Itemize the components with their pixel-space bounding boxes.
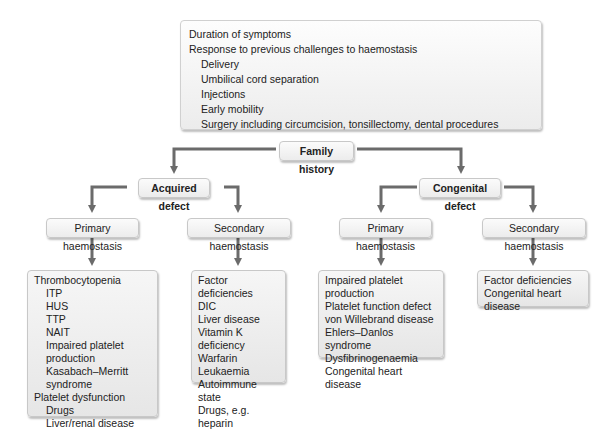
history-questions-box: Duration of symptoms Response to previou… xyxy=(180,20,542,130)
acquired-secondary-list: Factor deficiencies DIC Liver disease Vi… xyxy=(191,270,286,383)
history-subitem: Surgery including circumcision, tonsille… xyxy=(189,117,533,132)
list-item: Factor deficiencies xyxy=(484,274,582,287)
list-item: Congenital heart disease xyxy=(325,365,437,391)
list-subitem: TTP xyxy=(34,313,151,326)
acquired-primary-node: Primary haemostasis xyxy=(46,218,139,238)
list-item: von Willebrand disease xyxy=(325,313,437,326)
list-item: Ehlers–Danlos syndrome xyxy=(325,326,437,352)
list-subitem: Kasabach–Merritt syndrome xyxy=(34,365,151,391)
list-item: Platelet dysfunction xyxy=(34,391,151,404)
family-history-label: Family history xyxy=(299,145,334,175)
list-subitem: Impaired platelet production xyxy=(34,339,151,365)
congenital-secondary-list: Factor deficiencies Congenital heart dis… xyxy=(477,270,589,307)
congenital-defect-node: Congenital defect xyxy=(419,178,501,198)
list-item: Leukaemia xyxy=(198,365,279,378)
acquired-defect-node: Acquired defect xyxy=(138,178,210,198)
history-item: Duration of symptoms xyxy=(189,27,533,42)
acquired-primary-list: Thrombocytopenia ITP HUS TTP NAIT Impair… xyxy=(27,270,158,417)
list-item: Dysfibrinogenaemia xyxy=(325,352,437,365)
list-item: Impaired platelet production xyxy=(325,274,437,300)
acquired-primary-label: Primary haemostasis xyxy=(63,222,122,252)
list-item: Liver disease xyxy=(198,313,279,326)
list-item: Vitamin K deficiency xyxy=(198,326,279,352)
history-subitem: Early mobility xyxy=(189,102,533,117)
acquired-secondary-label: Secondary haemostasis xyxy=(210,222,269,252)
list-item: Drugs, e.g. heparin xyxy=(198,404,279,430)
list-item: Warfarin xyxy=(198,352,279,365)
list-subitem: Drugs xyxy=(34,404,151,417)
history-subitem: Delivery xyxy=(189,57,533,72)
list-item: Factor deficiencies xyxy=(198,274,279,300)
history-item: Response to previous challenges to haemo… xyxy=(189,42,533,57)
congenital-secondary-node: Secondary haemostasis xyxy=(482,218,586,238)
list-item: Congenital heart disease xyxy=(484,287,582,313)
list-item: Thrombocytopenia xyxy=(34,274,151,287)
list-item: Autoimmune state xyxy=(198,378,279,404)
list-subitem: HUS xyxy=(34,300,151,313)
list-item: Platelet function defect xyxy=(325,300,437,313)
history-subitem: Umbilical cord separation xyxy=(189,72,533,87)
list-subitem: NAIT xyxy=(34,326,151,339)
congenital-primary-label: Primary haemostasis xyxy=(356,222,415,252)
congenital-primary-node: Primary haemostasis xyxy=(339,218,432,238)
congenital-primary-list: Impaired platelet production Platelet fu… xyxy=(318,270,444,358)
history-subitem: Injections xyxy=(189,87,533,102)
congenital-secondary-label: Secondary haemostasis xyxy=(505,222,564,252)
list-subitem: Liver/renal disease xyxy=(34,417,151,430)
acquired-secondary-node: Secondary haemostasis xyxy=(187,218,291,238)
list-item: DIC xyxy=(198,300,279,313)
family-history-node: Family history xyxy=(279,141,354,161)
list-subitem: ITP xyxy=(34,287,151,300)
